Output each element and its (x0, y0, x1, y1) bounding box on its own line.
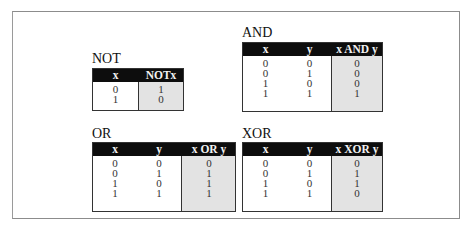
or-table-title: OR (92, 127, 111, 141)
table-cell: 1 (243, 88, 288, 98)
and-col-result: 0 0 0 1 (331, 58, 383, 98)
xor-col-x: 0 0 1 1 (243, 158, 288, 198)
or-header-y: y (137, 143, 181, 156)
table-cell: 0 (331, 188, 383, 198)
not-table-header: x NOTx (93, 69, 183, 82)
and-header-y: y (288, 43, 331, 56)
xor-table-header: x y x XOR y (243, 143, 382, 156)
xor-col-y: 0 1 0 1 (288, 158, 331, 198)
and-table-header: x y x AND y (243, 43, 382, 56)
table-cell: 1 (288, 88, 331, 98)
xor-truth-table: x y x XOR y 0 0 1 1 0 1 0 1 0 1 1 0 (242, 142, 383, 212)
and-col-y: 0 1 0 1 (288, 58, 331, 98)
not-header-notx: NOTx (138, 69, 184, 82)
table-cell: 1 (93, 188, 137, 198)
or-col-x: 0 0 1 1 (93, 158, 137, 198)
table-cell: 1 (93, 94, 138, 104)
or-col-result: 0 1 1 1 (181, 158, 237, 198)
or-col-y: 0 1 0 1 (137, 158, 181, 198)
not-col-x: 0 1 (93, 84, 138, 104)
or-table-header: x y x OR y (93, 143, 235, 156)
and-header-x: x (243, 43, 288, 56)
xor-header-y: y (288, 143, 331, 156)
xor-table-title: XOR (242, 127, 272, 141)
table-cell: 1 (137, 188, 181, 198)
or-header-x: x (93, 143, 137, 156)
xor-header-result: x XOR y (331, 143, 383, 156)
table-cell: 1 (243, 188, 288, 198)
or-truth-table: x y x OR y 0 0 1 1 0 1 0 1 0 1 1 1 (92, 142, 236, 212)
not-col-result: 1 0 (138, 84, 184, 104)
xor-header-x: x (243, 143, 288, 156)
or-header-result: x OR y (181, 143, 237, 156)
table-cell: 1 (181, 188, 237, 198)
and-table-title: AND (242, 26, 272, 40)
not-table-title: NOT (92, 52, 121, 66)
not-header-x: x (93, 69, 138, 82)
xor-col-result: 0 1 1 0 (331, 158, 383, 198)
and-col-x: 0 0 1 1 (243, 58, 288, 98)
table-cell: 1 (331, 88, 383, 98)
table-cell: 1 (288, 188, 331, 198)
and-header-result: x AND y (331, 43, 383, 56)
not-truth-table: x NOTx 0 1 1 0 (92, 68, 184, 111)
and-truth-table: x y x AND y 0 0 1 1 0 1 0 1 0 0 0 1 (242, 42, 383, 112)
table-cell: 0 (138, 94, 184, 104)
